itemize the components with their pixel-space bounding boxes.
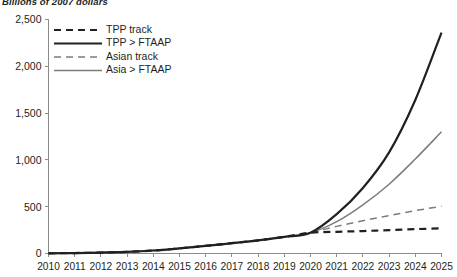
x-tick-label: 2023 xyxy=(378,261,401,272)
legend-label: Asia > FTAAP xyxy=(106,63,171,75)
x-tick-label: 2012 xyxy=(90,261,113,272)
x-tick-label: 2017 xyxy=(221,261,244,272)
chart-legend: TPP trackTPP > FTAAPAsian trackAsia > FT… xyxy=(54,23,171,76)
y-tick-label: 2,000 xyxy=(15,60,41,72)
x-tick-label: 2022 xyxy=(352,261,375,272)
x-axis: 2010201120122013201420152016201720182019… xyxy=(37,254,453,272)
y-tick-label: 1,000 xyxy=(15,154,41,166)
legend-label: TPP track xyxy=(106,23,153,35)
line-chart-plot: 05001,0001,5002,0002,500 201020112012201… xyxy=(0,0,457,277)
y-tick-label: 2,500 xyxy=(15,13,41,25)
x-tick-label: 2016 xyxy=(194,261,217,272)
x-tick-label: 2020 xyxy=(299,261,322,272)
y-tick-label: 1,500 xyxy=(15,107,41,119)
x-tick-label: 2018 xyxy=(247,261,270,272)
chart-container: Billions of 2007 dollars 05001,0001,5002… xyxy=(0,0,457,277)
x-tick-label: 2011 xyxy=(64,261,86,272)
legend-label: Asian track xyxy=(106,50,159,62)
x-tick-label: 2024 xyxy=(404,261,427,272)
x-tick-label: 2019 xyxy=(273,261,296,272)
legend-label: TPP > FTAAP xyxy=(106,36,171,48)
x-tick-label: 2013 xyxy=(116,261,139,272)
y-axis: 05001,0001,5002,0002,500 xyxy=(15,13,48,259)
x-tick-label: 2014 xyxy=(142,261,165,272)
x-tick-label: 2015 xyxy=(168,261,191,272)
y-tick-label: 0 xyxy=(36,247,42,259)
x-tick-label: 2025 xyxy=(430,261,453,272)
series-line xyxy=(49,132,442,253)
x-tick-label: 2021 xyxy=(325,261,348,272)
x-tick-label: 2010 xyxy=(37,261,60,272)
y-tick-label: 500 xyxy=(24,201,42,213)
series-line xyxy=(49,206,442,253)
